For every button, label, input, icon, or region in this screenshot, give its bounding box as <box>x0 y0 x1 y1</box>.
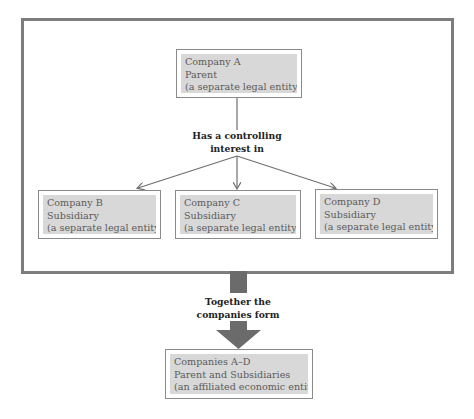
company-b-name: Company B <box>47 197 152 210</box>
company-b-note: (a separate legal entity) <box>47 222 152 234</box>
company-d-note: (a separate legal entity) <box>324 221 429 234</box>
company-a-box: Company A Parent (a separate legal entit… <box>176 49 302 98</box>
combine-label-line2: companies form <box>178 308 298 321</box>
company-a-note: (a separate legal entity) <box>185 81 293 93</box>
relation-label-line2: interest in <box>177 142 297 155</box>
combine-label-line1: Together the <box>178 295 298 308</box>
relation-label-line1: Has a controlling <box>177 129 297 142</box>
arrow-to-company-d <box>237 156 335 188</box>
combine-label: Together the companies form <box>178 295 298 321</box>
relation-label: Has a controlling interest in <box>177 129 297 155</box>
company-d-role: Subsidiary <box>324 209 429 222</box>
company-b-content: Company B Subsidiary (a separate legal e… <box>43 195 156 234</box>
company-b-role: Subsidiary <box>47 210 152 223</box>
company-c-name: Company C <box>184 197 292 210</box>
company-c-note: (a separate legal entity) <box>184 222 292 234</box>
company-a-role: Parent <box>185 69 293 82</box>
affiliated-entity-note: (an affiliated economic entity) <box>174 381 304 394</box>
company-c-box: Company C Subsidiary (a separate legal e… <box>175 190 301 239</box>
company-d-name: Company D <box>324 196 429 209</box>
company-b-box: Company B Subsidiary (a separate legal e… <box>38 190 161 239</box>
company-c-role: Subsidiary <box>184 210 292 223</box>
affiliated-entity-box: Companies A–D Parent and Subsidiaries (a… <box>165 349 313 399</box>
affiliated-entity-name: Companies A–D <box>174 356 304 369</box>
company-d-box: Company D Subsidiary (a separate legal e… <box>315 189 438 239</box>
company-c-content: Company C Subsidiary (a separate legal e… <box>180 195 296 234</box>
company-a-content: Company A Parent (a separate legal entit… <box>181 54 297 93</box>
big-arrow-head <box>216 330 261 349</box>
company-a-name: Company A <box>185 56 293 69</box>
affiliated-entity-content: Companies A–D Parent and Subsidiaries (a… <box>170 354 308 394</box>
affiliated-entity-role: Parent and Subsidiaries <box>174 369 304 382</box>
big-arrow-shaft-top <box>230 271 247 293</box>
arrow-to-company-b <box>138 156 237 188</box>
company-d-content: Company D Subsidiary (a separate legal e… <box>320 194 433 234</box>
